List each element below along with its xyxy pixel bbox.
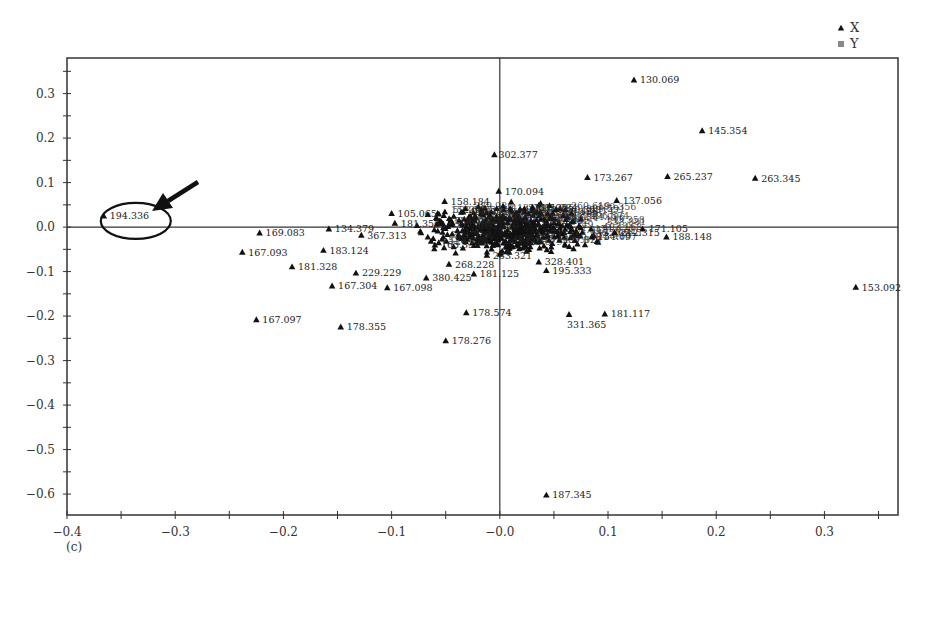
x-tick-label: 0.3	[815, 525, 834, 539]
triangle-marker-icon	[463, 309, 470, 315]
triangle-marker-icon	[853, 284, 860, 290]
y-tick-label: 0.2	[36, 131, 55, 145]
cluster-marker-icon	[442, 208, 448, 214]
data-point-label: 181.117	[611, 308, 650, 319]
data-point-label: 181.125	[480, 268, 519, 279]
y-tick-label: −0.1	[26, 265, 55, 279]
data-point-label: 187.345	[552, 489, 591, 500]
data-point-label: 380.425	[432, 272, 471, 283]
data-point-label: 331.365	[567, 319, 606, 330]
triangle-marker-icon	[256, 230, 263, 236]
cluster-marker-icon	[417, 228, 423, 234]
triangle-marker-icon	[535, 259, 542, 265]
x-tick-label: −0.1	[377, 525, 406, 539]
data-point-label: 302.377	[498, 149, 537, 160]
data-point: 229.229	[353, 267, 402, 278]
data-point: 170.094	[495, 186, 544, 197]
data-point-label: 167.097	[262, 314, 301, 325]
triangle-marker-icon	[337, 323, 344, 329]
arrow-shaft	[168, 182, 198, 201]
data-point: 181.125	[471, 268, 520, 279]
triangle-marker-icon	[613, 197, 620, 203]
triangle-marker-icon	[388, 210, 395, 216]
x-tick-label: 0.2	[707, 525, 726, 539]
triangle-marker-icon	[326, 226, 333, 232]
data-point-label: 265.237	[674, 171, 713, 182]
data-point-label: 188.148	[672, 231, 711, 242]
triangle-marker-icon	[495, 188, 502, 194]
data-point-label: 178.355	[347, 321, 386, 332]
data-point: 153.092	[853, 282, 902, 293]
y-tick-label: 0.0	[36, 220, 55, 234]
y-tick-label: −0.5	[26, 443, 55, 457]
legend-item-y: Y	[838, 36, 859, 51]
data-point: 178.276	[442, 335, 491, 346]
data-point-label: 330.363	[562, 204, 601, 215]
triangle-marker-icon	[663, 234, 670, 240]
data-point: 183.124	[320, 245, 369, 256]
data-point: 169.083	[256, 227, 305, 238]
x-tick-label: −0.0	[485, 525, 514, 539]
data-point-label: 137.056	[623, 195, 662, 206]
y-tick-label: 0.3	[36, 87, 55, 101]
triangle-marker-icon	[320, 247, 327, 253]
data-point: 187.345	[543, 489, 592, 500]
y-axis: 0.30.20.10.0−0.1−0.2−0.3−0.4−0.5−0.6	[26, 71, 71, 501]
data-point: 181.328	[289, 261, 338, 272]
data-point: 158.184	[441, 196, 490, 207]
data-point-label: 169.083	[266, 227, 305, 238]
data-point-label: 167.098	[393, 282, 432, 293]
y-tick-label: 0.1	[36, 176, 55, 190]
data-point-label: 195.333	[552, 265, 591, 276]
triangle-marker-icon	[664, 173, 671, 179]
data-point-label: 183.124	[329, 245, 368, 256]
data-point: 145.354	[699, 125, 748, 136]
data-point-label: 170.094	[505, 186, 544, 197]
triangle-marker-icon	[543, 492, 550, 498]
cluster-marker-icon	[452, 250, 458, 256]
data-point-label: 145.354	[708, 125, 747, 136]
legend-item-x: X	[838, 20, 860, 35]
triangle-marker-icon	[584, 174, 591, 180]
data-point: 265.237	[664, 171, 713, 182]
y-tick-label: −0.4	[26, 398, 56, 412]
x-tick-label: −0.4	[52, 525, 82, 539]
data-point-label: 178.276	[452, 335, 491, 346]
triangle-marker-icon	[353, 270, 360, 276]
data-point: 178.355	[337, 321, 386, 332]
triangle-marker-icon	[289, 263, 296, 269]
data-point-label: 465.30	[469, 206, 502, 217]
triangle-marker-icon	[329, 283, 336, 289]
data-point-label: 130.069	[640, 74, 679, 85]
triangle-marker-icon	[423, 275, 430, 281]
triangle-marker-icon	[543, 267, 550, 273]
data-point-label: 153.092	[862, 282, 901, 293]
data-point-label: 263.345	[761, 173, 800, 184]
triangle-marker-icon	[752, 175, 759, 181]
triangle-marker-icon	[441, 198, 448, 204]
triangle-marker-icon	[239, 249, 246, 255]
triangle-marker-icon	[384, 284, 391, 290]
data-point-label: 194.336	[110, 210, 149, 221]
data-point: 167.304	[329, 280, 378, 291]
triangle-marker-icon	[699, 127, 706, 133]
data-point-label: 367.313	[367, 230, 406, 241]
data-point-label: 181.356	[401, 218, 440, 229]
triangle-marker-icon	[446, 261, 453, 267]
triangle-marker-icon	[484, 252, 491, 258]
legend-square-icon	[838, 41, 844, 47]
triangle-marker-icon	[471, 271, 478, 277]
data-point-label: 178.574	[472, 307, 511, 318]
scatter-plot: −0.4−0.3−0.2−0.1−0.00.10.20.30.30.20.10.…	[0, 0, 927, 626]
triangle-marker-icon	[566, 311, 573, 317]
legend-label: Y	[849, 36, 859, 51]
x-tick-label: −0.2	[269, 525, 298, 539]
data-point: 173.267	[584, 172, 633, 183]
data-point-label: 229.229	[362, 267, 401, 278]
triangle-marker-icon	[442, 337, 449, 343]
data-point: 331.365	[566, 311, 607, 330]
triangle-marker-icon	[601, 311, 608, 317]
y-tick-label: −0.6	[26, 487, 55, 501]
triangle-marker-icon	[491, 151, 498, 157]
x-tick-label: −0.3	[161, 525, 190, 539]
